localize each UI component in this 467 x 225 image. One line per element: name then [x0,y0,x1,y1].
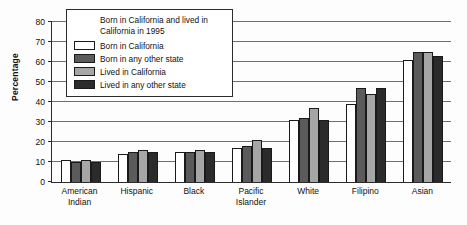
bar [413,52,423,182]
category-label-line: Black [165,186,222,197]
x-axis-category-labels: AmericanIndianHispanicBlackPacificIsland… [51,186,451,208]
legend-swatch-icon [74,54,95,63]
bar [205,152,215,182]
bar [366,94,376,182]
bar [289,120,299,182]
y-axis-tick-label: 20 [36,137,45,147]
x-axis-category-label: White [280,186,337,208]
category-label-line: Asian [394,186,451,197]
y-axis-tick-label: 50 [36,77,45,87]
legend-label: Born in California [100,41,164,51]
legend: Born in California and lived in Californ… [66,9,233,97]
bar [376,88,386,182]
bar [71,162,81,182]
bar [423,52,433,182]
legend-label: Lived in any other state [100,80,186,90]
y-axis-tick-label: 60 [36,57,45,67]
y-axis-tick-label: 10 [36,157,45,167]
bar [262,148,272,182]
bar [433,56,443,182]
legend-swatch-icon [74,41,95,50]
category-label-line: Filipino [337,186,394,197]
bar [61,160,71,182]
legend-entry: Lived in California [74,65,226,78]
y-axis-label: Percentage [10,41,20,113]
bar-chart: Percentage 01020304050607080 AmericanInd… [0,0,467,225]
legend-swatch-icon [74,67,95,76]
bar [232,148,242,182]
legend-entry: Born in any other state [74,52,226,65]
legend-swatch-icon [74,80,95,89]
legend-entry: Lived in any other state [74,78,226,91]
y-axis-tick-label: 80 [36,17,45,27]
y-axis-tick-label: 0 [40,177,45,187]
bar [185,152,195,182]
bar [299,118,309,182]
bar [403,60,413,182]
bar [356,88,366,182]
x-axis-category-label: Hispanic [108,186,165,208]
bar [138,150,148,182]
y-axis-tick-label: 40 [36,97,45,107]
legend-entry: Born in California [74,39,226,52]
bar-group [394,22,451,182]
category-label-line: American [51,186,108,197]
legend-label: Lived in California [100,67,166,77]
legend-label: Born in any other state [100,54,183,64]
x-axis-category-label: PacificIslander [222,186,279,208]
bar [128,152,138,182]
x-axis-category-label: Black [165,186,222,208]
legend-entries: Born in CaliforniaBorn in any other stat… [74,39,226,91]
bar-group [337,22,394,182]
bar [309,108,319,182]
bar [195,150,205,182]
x-axis-category-label: Filipino [337,186,394,208]
category-label-line: Indian [51,197,108,208]
category-label-line: Islander [222,197,279,208]
bar [148,152,158,182]
bar [175,152,185,182]
legend-title: Born in California and lived in Californ… [100,15,226,37]
y-axis-tick-label: 70 [36,37,45,47]
x-axis-category-label: Asian [394,186,451,208]
bar [346,104,356,182]
bar [252,140,262,182]
category-label-line: White [280,186,337,197]
bar [319,120,329,182]
bar [242,146,252,182]
category-label-line: Pacific [222,186,279,197]
bar [118,154,128,182]
bar [91,162,101,182]
bar-group [280,22,337,182]
y-axis-tick-label: 30 [36,117,45,127]
x-axis-category-label: AmericanIndian [51,186,108,208]
bar [81,160,91,182]
category-label-line: Hispanic [108,186,165,197]
